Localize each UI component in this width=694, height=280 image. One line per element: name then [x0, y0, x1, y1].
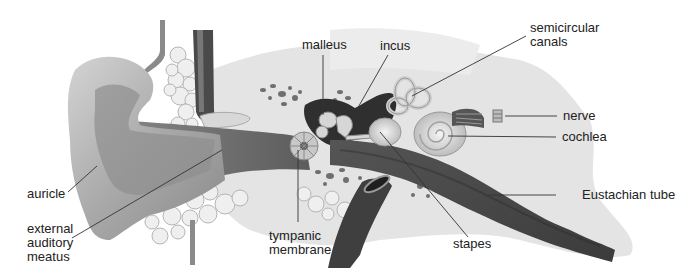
label-tympanic: tympanic — [269, 228, 321, 243]
label-malleus: malleus — [302, 37, 347, 52]
label-cochlea: cochlea — [562, 129, 607, 144]
tympanic-membrane — [290, 132, 318, 160]
label-auditory: auditory — [27, 235, 73, 250]
label-incus: incus — [380, 38, 410, 53]
label-membrane: membrane — [269, 242, 331, 257]
vestibule — [369, 118, 401, 146]
tissue-upper — [164, 47, 199, 131]
label-semicircular: semicircular — [530, 20, 599, 35]
label-stapes: stapes — [453, 236, 491, 251]
ear-anatomy-diagram: auricle external auditory meatus malleus… — [0, 0, 694, 280]
label-canals: canals — [530, 34, 568, 49]
label-eustachian-tube: Eustachian tube — [582, 187, 675, 202]
label-nerve: nerve — [563, 108, 596, 123]
label-meatus: meatus — [27, 249, 70, 264]
label-auricle: auricle — [27, 186, 65, 201]
label-external: external — [27, 221, 73, 236]
